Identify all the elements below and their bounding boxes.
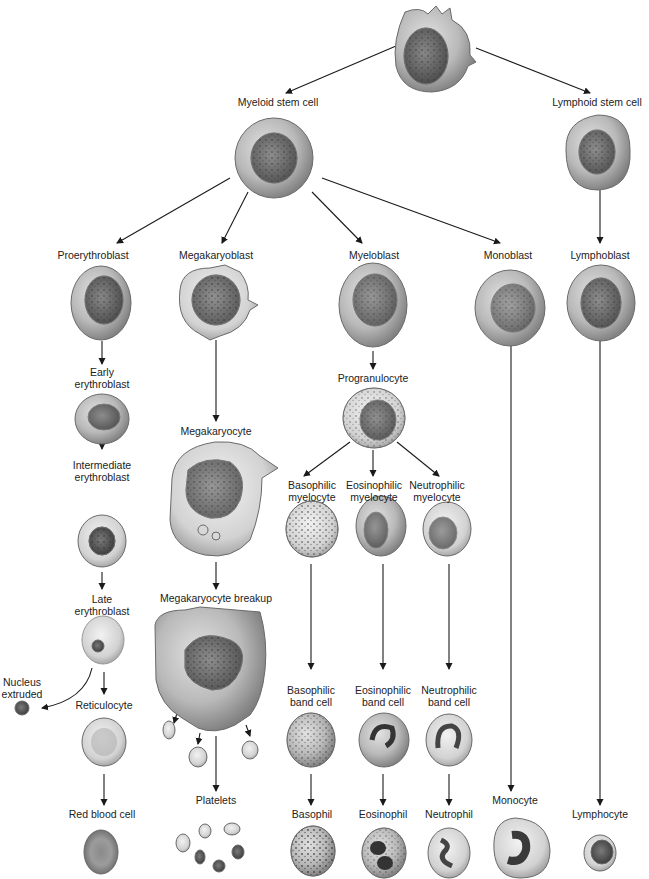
myeloblast	[339, 263, 407, 347]
label-megakaryocyte: Megakaryocyte	[180, 425, 251, 437]
intermediate-erythroblast	[78, 515, 126, 567]
hematopoietic-stem-cell	[395, 6, 476, 92]
cells	[15, 6, 635, 878]
label-line: band cell	[355, 696, 411, 708]
label-red-blood-cell: Red blood cell	[69, 808, 136, 820]
megakaryocyte-breakup	[155, 607, 266, 767]
label-megakaryoblast: Megakaryoblast	[179, 249, 253, 261]
label-lymphocyte: Lymphocyte	[572, 808, 628, 820]
megakaryoblast	[179, 265, 258, 340]
eosinophilic-band-cell	[359, 713, 409, 767]
label-eosinophilic-myelocyte: Eosinophilic myelocyte	[346, 479, 402, 503]
label-intermediate-erythroblast: Intermediate erythroblast	[73, 459, 131, 483]
label-proerythroblast: Proerythroblast	[57, 249, 128, 261]
label-line: extruded	[2, 688, 43, 700]
eosinophil	[362, 828, 406, 878]
label-line: Neutrophilic	[421, 684, 476, 696]
label-line: erythroblast	[73, 471, 131, 483]
label-nucleus-extruded: Nucleus extruded	[2, 676, 43, 700]
label-line: Neutrophilic	[409, 479, 464, 491]
label-line: erythroblast	[75, 378, 130, 390]
label-line: myelocyte	[288, 491, 336, 503]
label-eosinophilic-band-cell: Eosinophilic band cell	[355, 684, 411, 708]
progranulocyte	[343, 388, 405, 448]
label-platelets: Platelets	[196, 794, 236, 806]
label-basophil: Basophil	[292, 808, 332, 820]
megakaryocyte	[170, 442, 278, 556]
label-lymphoblast: Lymphoblast	[570, 249, 629, 261]
myeloid-stem-cell	[235, 118, 313, 198]
label-monoblast: Monoblast	[484, 249, 532, 261]
label-line: band cell	[421, 696, 476, 708]
label-early-erythroblast: Early erythroblast	[75, 366, 130, 390]
neutrophil	[428, 828, 470, 878]
label-basophilic-band-cell: Basophilic band cell	[287, 684, 335, 708]
neutrophilic-band-cell	[426, 714, 472, 766]
lymphocyte	[584, 835, 616, 871]
lymphoid-stem-cell	[566, 115, 630, 190]
label-megakaryocyte-breakup: Megakaryocyte breakup	[160, 592, 272, 604]
label-line: Basophilic	[288, 479, 336, 491]
label-eosinophil: Eosinophil	[359, 808, 407, 820]
label-myeloblast: Myeloblast	[349, 249, 399, 261]
label-line: band cell	[287, 696, 335, 708]
label-line: Eosinophilic	[346, 479, 402, 491]
label-late-erythroblast: Late erythroblast	[75, 593, 130, 617]
label-line: Nucleus	[2, 676, 43, 688]
basophilic-band-cell	[287, 713, 335, 767]
label-neutrophilic-myelocyte: Neutrophilic myelocyte	[409, 479, 464, 503]
label-line: Early	[75, 366, 130, 378]
early-erythroblast	[75, 394, 129, 444]
label-myeloid-stem-cell: Myeloid stem cell	[238, 96, 319, 108]
label-line: Eosinophilic	[355, 684, 411, 696]
platelets	[176, 823, 244, 872]
monocyte	[494, 818, 550, 878]
basophilic-myelocyte	[286, 501, 338, 557]
eosinophilic-myelocyte	[356, 496, 406, 556]
label-neutrophil: Neutrophil	[425, 808, 473, 820]
label-line: erythroblast	[75, 605, 130, 617]
label-line: myelocyte	[409, 491, 464, 503]
late-erythroblast	[82, 616, 124, 664]
neutrophilic-myelocyte	[423, 502, 471, 556]
label-reticulocyte: Reticulocyte	[75, 699, 132, 711]
red-blood-cell	[84, 830, 118, 874]
diagram-graphics	[0, 0, 649, 879]
monoblast	[475, 270, 545, 346]
label-line: Intermediate	[73, 459, 131, 471]
basophil	[291, 826, 335, 876]
proerythroblast	[71, 266, 131, 340]
label-line: Late	[75, 593, 130, 605]
label-line: Basophilic	[287, 684, 335, 696]
hematopoiesis-diagram: Myeloid stem cell Lymphoid stem cell Pro…	[0, 0, 649, 879]
extruded-nucleus	[15, 701, 29, 715]
label-progranulocyte: Progranulocyte	[338, 372, 409, 384]
label-monocyte: Monocyte	[492, 794, 538, 806]
lymphoblast	[567, 265, 635, 341]
label-line: myelocyte	[346, 491, 402, 503]
reticulocyte	[82, 718, 126, 766]
label-neutrophilic-band-cell: Neutrophilic band cell	[421, 684, 476, 708]
label-lymphoid-stem-cell: Lymphoid stem cell	[552, 96, 641, 108]
label-basophilic-myelocyte: Basophilic myelocyte	[288, 479, 336, 503]
